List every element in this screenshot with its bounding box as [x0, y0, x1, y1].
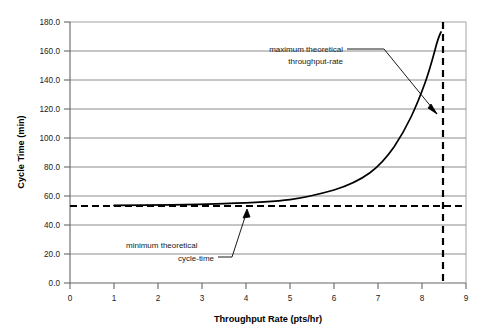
x-tick-label: 3	[200, 294, 205, 303]
cycle-time-vs-throughput-chart: 0.0 20.0 40.0 60.0 80.0 100.0 120.0 140.…	[0, 0, 486, 334]
x-tick-label: 9	[464, 294, 469, 303]
y-tick-label: 120.0	[40, 105, 61, 114]
y-tick-label: 0.0	[49, 279, 61, 288]
y-axis-ticks	[64, 22, 70, 283]
x-tick-label: 6	[332, 294, 337, 303]
x-tick-label: 1	[112, 294, 117, 303]
y-axis-title: Cycle Time (min)	[16, 115, 26, 188]
y-tick-label: 160.0	[40, 47, 61, 56]
x-axis-tick-labels: 0 1 2 3 4 5 6 7 8 9	[68, 294, 469, 303]
y-tick-label: 100.0	[40, 134, 61, 143]
x-axis-ticks	[70, 283, 466, 289]
chart-page: 0.0 20.0 40.0 60.0 80.0 100.0 120.0 140.…	[0, 0, 486, 334]
x-axis-title: Throughput Rate (pts/hr)	[214, 314, 322, 324]
y-tick-label: 60.0	[44, 192, 60, 201]
y-tick-label: 40.0	[44, 221, 60, 230]
y-tick-label: 180.0	[40, 18, 61, 27]
x-tick-label: 5	[288, 294, 293, 303]
y-tick-label: 20.0	[44, 250, 60, 259]
y-tick-label: 140.0	[40, 76, 61, 85]
x-tick-label: 8	[420, 294, 425, 303]
annotation-min-cycle-line2: cycle-time	[178, 254, 215, 263]
y-tick-label: 80.0	[44, 163, 60, 172]
y-axis-tick-labels: 0.0 20.0 40.0 60.0 80.0 100.0 120.0 140.…	[40, 18, 61, 288]
annotation-min-cycle-line1: minimum theoretical	[126, 241, 198, 250]
annotation-max-throughput-line1: maximum theoretical	[269, 45, 343, 54]
annotation-max-throughput-line2: throughput-rate	[288, 57, 343, 66]
x-tick-label: 0	[68, 294, 73, 303]
x-tick-label: 4	[244, 294, 249, 303]
x-tick-label: 7	[376, 294, 381, 303]
x-tick-label: 2	[156, 294, 161, 303]
